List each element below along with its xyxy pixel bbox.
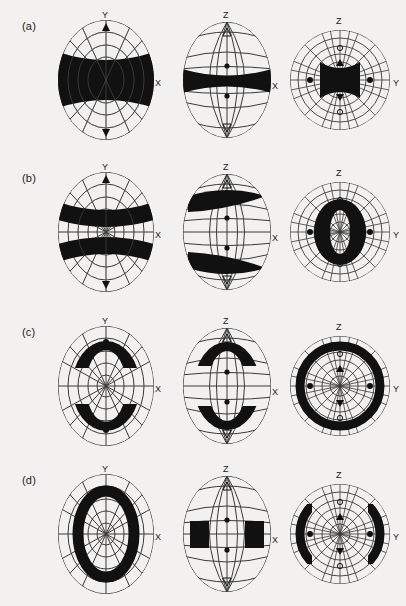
panel-c3: Z Y — [288, 316, 400, 456]
filled-circle-marker — [224, 215, 229, 220]
pole-figure-plate: (a) — [0, 0, 406, 606]
axis-label-right: X — [272, 233, 278, 243]
shaded-zone-d2-right — [245, 521, 264, 548]
axis-label-right: X — [155, 532, 161, 542]
net-b1 — [52, 164, 160, 300]
filled-circle-marker — [224, 63, 229, 68]
filled-circle-marker — [224, 547, 229, 552]
axis-label-right: Y — [393, 384, 399, 394]
shaded-zone-d2-left — [190, 521, 209, 548]
figure-row-c: (c) — [0, 310, 406, 460]
filled-circle-marker — [224, 245, 229, 250]
net-c3 — [288, 334, 392, 438]
filled-circle-marker — [367, 77, 373, 83]
axis-label-top: Z — [223, 162, 229, 172]
filled-circle-marker — [224, 517, 229, 522]
filled-circle-marker — [307, 229, 313, 235]
row-label-c: (c) — [22, 326, 35, 338]
axis-label-top: Z — [336, 16, 342, 26]
axis-label-top: Z — [223, 464, 229, 474]
axis-label-right: Y — [393, 230, 399, 240]
panel-a3: Z Y — [288, 10, 400, 150]
panel-d3: Z Y — [288, 464, 400, 604]
filled-circle-marker — [103, 427, 109, 433]
net-b2 — [178, 174, 276, 290]
filled-triangle-marker — [102, 281, 110, 289]
net-a1 — [52, 12, 160, 148]
filled-circle-marker — [224, 93, 229, 98]
row-label-d: (d) — [22, 474, 36, 486]
axis-label-right: Y — [393, 78, 399, 88]
axis-label-top: Y — [102, 316, 108, 326]
figure-row-a: (a) — [0, 4, 406, 154]
net-b3 — [288, 162, 400, 302]
net-a2 — [178, 22, 276, 138]
axis-label-right: X — [155, 230, 161, 240]
net-a3 — [288, 28, 392, 132]
figure-row-d: (d) Y — [0, 458, 406, 606]
filled-triangle-marker — [102, 175, 110, 183]
axis-label-top: Z — [223, 316, 229, 326]
filled-circle-marker — [307, 77, 313, 83]
row-label-b: (b) — [22, 172, 36, 184]
axis-label-right: X — [155, 384, 161, 394]
filled-circle-marker — [103, 339, 109, 345]
panel-a2: Z X — [172, 10, 282, 150]
shaded-zone-c2 — [172, 316, 282, 456]
filled-circle-marker — [224, 399, 229, 404]
filled-circle-marker — [307, 383, 313, 389]
net-d2 — [178, 476, 276, 592]
filled-triangle-marker — [102, 129, 110, 137]
panel-b1: Y X — [48, 162, 164, 302]
shaded-zone-c1 — [48, 316, 164, 456]
axis-label-top: Y — [102, 162, 108, 172]
axis-label-top: Z — [223, 10, 229, 20]
panel-d1: Y X — [48, 464, 164, 604]
filled-circle-marker — [367, 229, 373, 235]
filled-triangle-marker — [102, 23, 110, 31]
axis-label-right: X — [272, 81, 278, 91]
panel-b2: Z X — [172, 162, 282, 302]
axis-label-top: Y — [102, 10, 108, 20]
net-d1 — [52, 466, 160, 602]
axis-label-top: Z — [336, 168, 342, 178]
net-d3 — [288, 482, 392, 586]
axis-label-top: Z — [336, 322, 342, 332]
filled-circle-marker — [367, 531, 373, 537]
panel-a1: Y X — [48, 10, 164, 150]
shaded-zone-b3 — [288, 162, 400, 302]
panel-c2: Z X — [172, 316, 282, 456]
panel-c1: Y X — [48, 316, 164, 456]
filled-circle-marker — [224, 369, 229, 374]
axis-label-right: X — [272, 387, 278, 397]
filled-circle-marker — [367, 383, 373, 389]
axis-label-right: X — [155, 78, 161, 88]
row-label-a: (a) — [22, 20, 36, 32]
axis-label-top: Z — [336, 470, 342, 480]
axis-label-right: X — [272, 535, 278, 545]
net-c2 — [172, 316, 282, 456]
panel-b3: Z Y — [288, 162, 400, 302]
panel-d2: Z X — [172, 464, 282, 604]
axis-label-right: Y — [393, 532, 399, 542]
figure-row-b: (b) — [0, 156, 406, 306]
net-c1 — [48, 316, 164, 456]
filled-circle-marker — [307, 531, 313, 537]
axis-label-top: Y — [102, 464, 108, 474]
